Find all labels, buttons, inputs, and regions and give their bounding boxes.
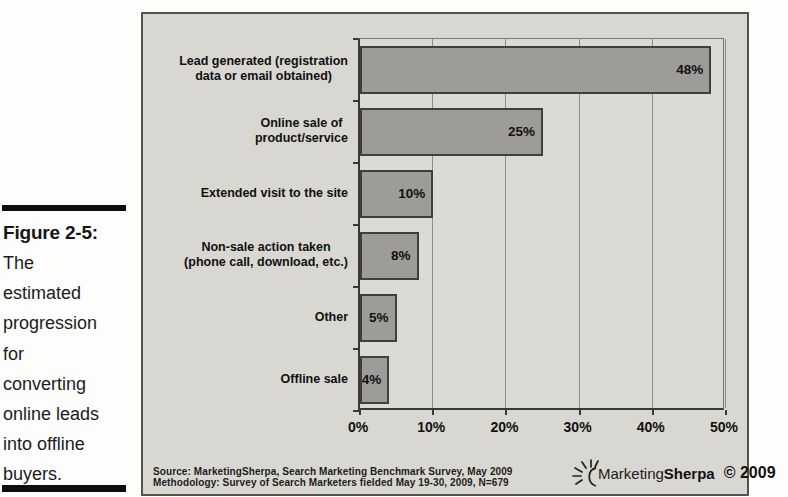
- bar-row: 8%: [360, 225, 723, 287]
- bar-row: 10%: [360, 163, 723, 225]
- bar: 48%: [360, 46, 711, 94]
- bar-row: 48%: [360, 39, 723, 101]
- bar-value-label: 10%: [398, 172, 425, 216]
- marketingsherpa-logo: MarketingSherpa © 2009: [571, 458, 776, 488]
- brand-name-regular: Marketing: [598, 465, 664, 482]
- bar-row: 5%: [360, 287, 723, 349]
- gridline: [725, 39, 726, 408]
- bar-value-label: 8%: [391, 234, 411, 278]
- caption-bottom-rule: [2, 485, 126, 492]
- x-tick-label: 10%: [417, 419, 445, 435]
- x-tick-label: 20%: [490, 419, 518, 435]
- sunburst-icon: [571, 458, 601, 488]
- bar: 10%: [360, 170, 433, 218]
- bar-value-label: 48%: [676, 48, 703, 92]
- x-tick-label: 50%: [710, 419, 738, 435]
- bar: 4%: [360, 356, 389, 404]
- bar: 25%: [360, 108, 543, 156]
- bar-value-label: 25%: [508, 110, 535, 154]
- x-tick-label: 0%: [348, 419, 368, 435]
- bar-row: 4%: [360, 349, 723, 411]
- source-note: Source: MarketingSherpa, Search Marketin…: [153, 466, 513, 488]
- figure-caption: Figure 2-5: The estimated progression fo…: [0, 0, 134, 497]
- figure-label: Figure 2-5:: [3, 222, 98, 244]
- bar-row: 25%: [360, 101, 723, 163]
- source-line: Source: MarketingSherpa, Search Marketin…: [153, 466, 513, 477]
- bar: 5%: [360, 294, 397, 342]
- brand-name-bold: Sherpa: [664, 465, 715, 482]
- methodology-line: Methodology: Survey of Search Marketers …: [153, 477, 513, 488]
- bar-value-label: 5%: [369, 296, 389, 340]
- copyright-text: © 2009: [724, 464, 776, 482]
- chart-panel: Lead generated (registration data or ema…: [141, 12, 749, 496]
- caption-top-rule: [2, 205, 126, 211]
- figure-caption-text: The estimated progression for converting…: [3, 248, 99, 490]
- plot-area: 48%25%10%8%5%4%: [358, 38, 724, 410]
- x-tick-label: 30%: [564, 419, 592, 435]
- bar-value-label: 4%: [362, 358, 382, 402]
- bar: 8%: [360, 232, 419, 280]
- x-tick-label: 40%: [637, 419, 665, 435]
